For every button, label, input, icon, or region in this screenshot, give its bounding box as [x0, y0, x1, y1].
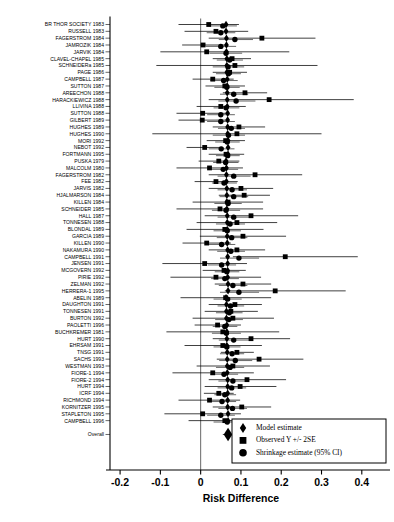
study-label: SACHS 1993 — [74, 356, 104, 362]
model-estimate-marker — [224, 192, 229, 200]
study-label: CAMPBELL 1987 — [64, 76, 104, 82]
shrinkage-marker — [229, 235, 234, 240]
x-axis-tick-label: 0.2 — [274, 476, 289, 488]
shrinkage-marker — [230, 378, 235, 383]
study-label: STAPLETON 1995 — [61, 411, 104, 417]
study-label: KILLEN 1990 — [74, 240, 104, 246]
study-label: BLONDAL 1989 — [68, 226, 105, 232]
shrinkage-marker — [236, 290, 241, 295]
study-label: MCGOVERN 1992 — [61, 267, 104, 273]
study-label: HURT 1990 — [77, 336, 104, 342]
observed-marker — [257, 357, 262, 362]
study-label: GARCIA 1989 — [72, 233, 104, 239]
shrinkage-marker — [231, 194, 236, 199]
study-label: KILLEN 1984 — [74, 199, 104, 205]
observed-marker — [202, 261, 207, 266]
study-label: DAUGHTON 1991 — [62, 301, 104, 307]
observed-marker — [204, 241, 209, 246]
study-label: GILBERT 1989 — [70, 117, 105, 123]
shrinkage-marker — [218, 30, 223, 35]
study-label: SUTTON 1987 — [70, 83, 104, 89]
study-label: MORI 1992 — [78, 138, 104, 144]
model-estimate-marker — [224, 185, 229, 193]
model-estimate-marker — [225, 96, 230, 104]
study-label: LLIVINA 1988 — [73, 103, 105, 109]
study-label: HARACKIEWICZ 1988 — [52, 97, 104, 103]
observed-marker — [273, 288, 278, 293]
overall-model-marker — [224, 428, 233, 442]
shrinkage-marker — [218, 119, 223, 124]
shrinkage-marker — [229, 385, 234, 390]
study-label: BUCHKREMER 1981 — [55, 329, 104, 335]
legend-label: Model estimate — [256, 423, 302, 432]
model-estimate-marker — [225, 376, 230, 384]
shrinkage-marker — [218, 44, 223, 49]
model-estimate-marker — [225, 260, 230, 268]
model-estimate-marker — [224, 41, 229, 49]
x-axis-tick-label: 0.1 — [234, 476, 249, 488]
model-estimate-marker — [225, 239, 230, 247]
study-label: PAGE 1986 — [77, 69, 104, 75]
study-label: CAMPBELL 1996 — [64, 418, 104, 424]
study-label: HALL 1987 — [79, 213, 104, 219]
shrinkage-marker — [219, 242, 224, 247]
model-estimate-marker — [224, 171, 229, 179]
study-label: HUGHES 1989 — [69, 124, 104, 130]
shrinkage-marker — [230, 283, 235, 288]
study-label: JAMROZIK 1984 — [66, 42, 105, 48]
x-axis-tick-label: -0.1 — [151, 476, 169, 488]
model-estimate-marker — [225, 355, 230, 363]
observed-marker — [200, 118, 205, 123]
observed-marker — [200, 411, 205, 416]
study-label: SUTTON 1988 — [70, 110, 104, 116]
shrinkage-marker — [231, 214, 236, 219]
model-estimate-marker — [225, 116, 230, 124]
study-label: SCHNEIDERa 1985 — [58, 62, 104, 68]
model-estimate-marker — [225, 212, 230, 220]
study-label: PUSKA 1979 — [74, 158, 104, 164]
study-label: ABELIN 1989 — [73, 295, 104, 301]
shrinkage-marker — [218, 413, 223, 418]
study-label: HURT 1994 — [77, 383, 104, 389]
study-label: NAKAMURA 1990 — [63, 247, 105, 253]
model-estimate-marker — [225, 403, 230, 411]
shrinkage-marker — [219, 399, 224, 404]
study-label: JENSEN 1991 — [71, 260, 104, 266]
model-estimate-marker — [225, 110, 230, 118]
legend-circle-icon — [239, 449, 247, 457]
study-label: FAGERSTROM 1984 — [56, 35, 105, 41]
study-label: ZELMAN 1992 — [71, 281, 105, 287]
study-label: HERRERA-1 1995 — [62, 288, 104, 294]
model-estimate-marker — [225, 232, 230, 240]
study-label: MALCOLM 1980 — [66, 165, 104, 171]
observed-marker — [253, 172, 258, 177]
shrinkage-marker — [231, 337, 236, 342]
observed-marker — [283, 254, 288, 259]
study-label: FIORE-2 1994 — [71, 377, 104, 383]
shrinkage-marker — [232, 37, 237, 42]
study-label: WESTMAN 1993 — [65, 363, 104, 369]
study-label: KORNITZER 1995 — [62, 404, 104, 410]
model-estimate-marker — [226, 144, 231, 152]
x-axis-tick-label: -0.2 — [111, 476, 129, 488]
study-label: HJALMARSON 1984 — [56, 192, 104, 198]
model-estimate-marker — [225, 89, 230, 97]
study-label: FEE 1982 — [81, 178, 104, 184]
x-axis-tick-label: 0.3 — [314, 476, 329, 488]
legend-square-icon — [240, 437, 247, 444]
model-estimate-marker — [226, 287, 231, 295]
shrinkage-marker — [233, 98, 238, 103]
study-label: TNSG 1991 — [77, 349, 104, 355]
study-label: RUSSELL 1983 — [68, 28, 104, 34]
study-label: AREECHON 1988 — [62, 90, 104, 96]
shrinkage-marker — [218, 112, 223, 117]
observed-marker — [259, 36, 264, 41]
legend-label: Observed Y +/- 2SE — [256, 435, 316, 444]
shrinkage-marker — [228, 303, 233, 308]
study-label: SCHNEIDER 1985 — [61, 206, 104, 212]
model-estimate-marker — [226, 410, 231, 418]
study-label: NEBOT 1992 — [74, 144, 104, 150]
study-label: RICHMOND 1994 — [63, 397, 104, 403]
observed-marker — [201, 43, 206, 48]
model-estimate-marker — [224, 335, 229, 343]
